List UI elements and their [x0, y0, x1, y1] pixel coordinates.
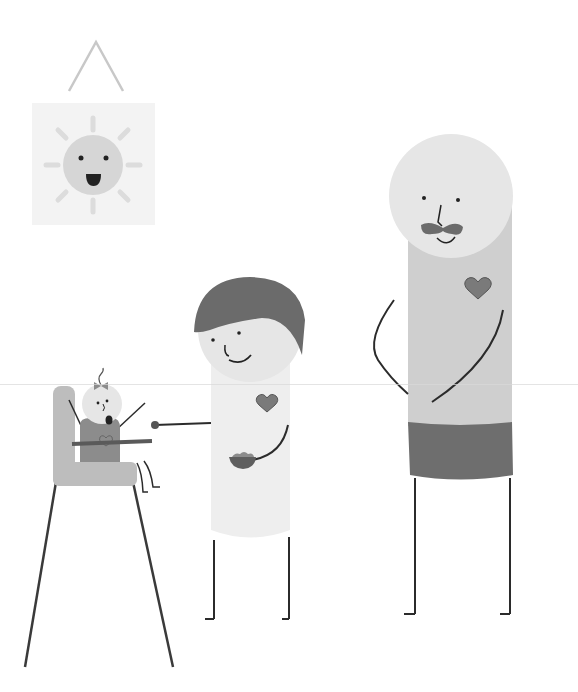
family-illustration	[0, 0, 578, 692]
sun-picture	[32, 42, 155, 225]
adult-eye-right	[456, 198, 460, 202]
sun-face	[63, 135, 123, 195]
adult-head	[389, 134, 513, 258]
baby-mouth	[106, 416, 113, 425]
adult	[374, 134, 513, 614]
sun-eye-right	[104, 156, 109, 161]
adult-shorts	[408, 422, 513, 480]
chair-leg-left	[25, 482, 56, 667]
baby-legs	[137, 461, 160, 492]
picture-hanger	[69, 42, 123, 91]
child-eye-right	[237, 331, 241, 335]
scan-fold-line	[0, 384, 578, 385]
baby-eye-right	[106, 400, 109, 403]
adult-arm-left	[374, 300, 408, 394]
child	[151, 277, 305, 619]
child-eye-left	[211, 338, 215, 342]
child-arm-spoon	[155, 423, 211, 425]
adult-eye-left	[422, 196, 426, 200]
chair-seat	[53, 462, 137, 486]
chair-leg-right	[133, 482, 173, 667]
spoon-icon	[151, 421, 159, 429]
baby-head	[82, 384, 122, 424]
baby-eye-left	[97, 402, 100, 405]
sun-eye-left	[79, 156, 84, 161]
baby-curl	[99, 368, 103, 385]
